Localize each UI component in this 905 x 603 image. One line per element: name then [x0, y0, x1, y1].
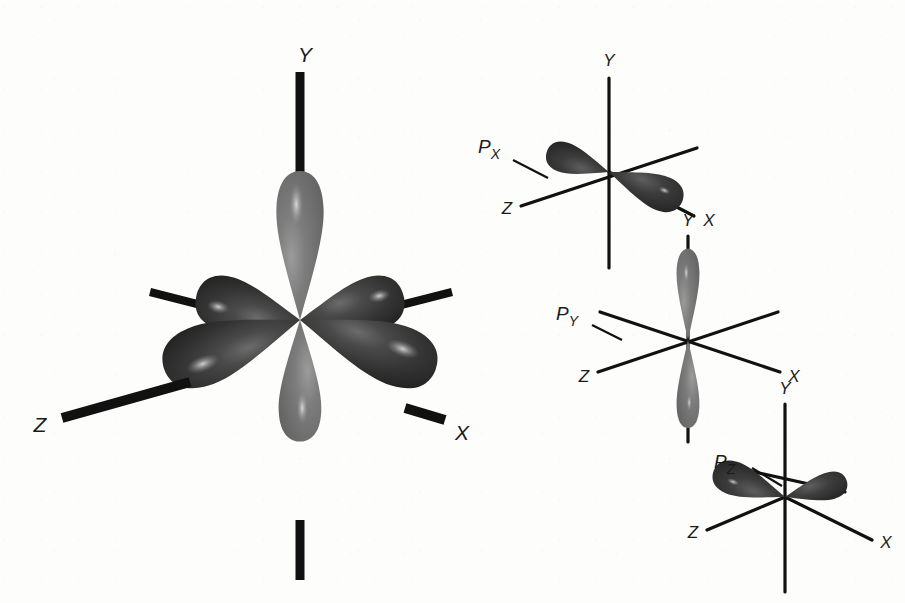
main-label-x: X	[454, 421, 470, 444]
main-label-z: Z	[33, 413, 48, 436]
main-orbital-diagram: Y Z X	[33, 43, 470, 580]
pz-axis-z	[707, 497, 785, 530]
pz-axis-x	[785, 497, 872, 540]
pz-label-z: Z	[687, 523, 699, 542]
pz-label-x: X	[879, 533, 892, 552]
px-orbital-diagram: PX Y Z X	[478, 51, 715, 268]
px-leader-line	[513, 160, 548, 178]
figure-canvas: Y Z X PX Y	[0, 0, 905, 603]
px-orbital-label: PX	[478, 136, 501, 162]
px-label-y: Y	[603, 51, 616, 70]
py-label-z: Z	[578, 367, 590, 386]
pz-label-y: Y	[779, 379, 792, 398]
rod-x-positive	[405, 408, 445, 420]
py-leader-line	[592, 325, 622, 340]
lobe-y-positive	[276, 171, 323, 320]
px-label-x: X	[702, 211, 715, 230]
py-lobe-negative	[677, 340, 700, 428]
px-label-z: Z	[501, 199, 513, 218]
py-orbital-label: PY	[556, 303, 580, 329]
main-label-y: Y	[298, 43, 314, 66]
py-orbital-diagram: PY Y Z X	[556, 211, 800, 442]
lobe-y-negative	[279, 320, 322, 442]
px-axes	[521, 78, 697, 268]
py-label-y: Y	[682, 211, 695, 230]
pz-orbital-diagram: PZ Y Z X	[687, 379, 893, 592]
py-lobe-positive	[677, 249, 700, 340]
rod-z-negative	[62, 382, 190, 418]
main-axis-rods-front	[62, 382, 445, 580]
pz-lobe-positive	[782, 468, 851, 510]
pz-axes	[707, 404, 872, 592]
